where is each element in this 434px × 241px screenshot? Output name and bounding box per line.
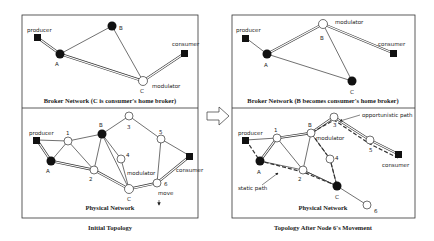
consumer-node — [181, 50, 188, 57]
modulator-label: modulator — [316, 135, 345, 141]
broker-a — [56, 50, 65, 59]
transition-arrow — [207, 107, 229, 125]
right-broker-network: producer consumer A B C modulator Broker… — [236, 19, 406, 105]
producer-label: producer — [236, 27, 261, 34]
consumer-label: consumer — [378, 41, 406, 47]
B-label: B — [119, 25, 123, 31]
B-label: B — [320, 35, 324, 41]
B-label: B — [308, 122, 312, 128]
physical-caption-label: Physical Network — [299, 204, 348, 211]
A-label: A — [257, 169, 261, 175]
right-physical-network — [246, 117, 398, 205]
modulator-label: modulator — [127, 170, 156, 176]
opportunistic-label: opportunistic path — [362, 112, 413, 119]
C-label: C — [335, 194, 339, 200]
right-panel: producer consumer A B C modulator Broker… — [232, 15, 415, 231]
n2-label: 2 — [89, 176, 93, 182]
n6-label: 6 — [374, 208, 378, 214]
A-label: A — [46, 168, 50, 174]
consumer-label: consumer — [176, 167, 204, 173]
producer-node — [34, 34, 41, 41]
broker-c — [139, 77, 148, 86]
n1-label: 1 — [66, 130, 70, 136]
producer-label: producer — [27, 27, 52, 34]
n3-label: 3 — [127, 124, 131, 130]
producer-label: producer — [29, 130, 54, 137]
left-broker-network: producer consumer A B C modulator Broker… — [27, 22, 200, 106]
n1-label: 1 — [274, 127, 278, 133]
modulator-label: modulator — [335, 19, 364, 25]
producer-node — [33, 137, 40, 144]
consumer-node — [186, 153, 193, 160]
n2-label: 2 — [298, 176, 302, 182]
consumer-label: consumer — [382, 162, 410, 168]
left-panel: producer consumer A B C modulator Broker… — [22, 15, 204, 231]
A-label: A — [55, 61, 59, 67]
n4-label: 4 — [126, 152, 130, 158]
broker-caption-label: Broker Network (B becomes consumer's hom… — [247, 97, 398, 105]
broker-b — [108, 22, 117, 31]
right-title: Topology After Node 6's Movement — [274, 224, 373, 231]
n6-label: 6 — [164, 181, 168, 187]
left-physical-caption: Physical Network — [86, 204, 135, 211]
n5-label: 5 — [159, 129, 163, 135]
left-broker-caption: Broker Network (C is consumer's home bro… — [44, 97, 177, 105]
diagram-canvas: producer consumer A B C modulator Broker… — [0, 0, 434, 241]
C-label: C — [127, 196, 131, 202]
A-label: A — [264, 62, 268, 68]
n4-label: 4 — [335, 155, 339, 161]
C-label: C — [350, 89, 354, 95]
producer-label: producer — [238, 130, 263, 137]
static-label: static path — [238, 185, 268, 192]
n3-label: 3 — [333, 122, 337, 128]
n5-label: 5 — [369, 147, 373, 153]
move-label: move — [158, 190, 174, 196]
modulator-label: modulator — [152, 83, 181, 89]
consumer-label: consumer — [172, 41, 200, 47]
B-label: B — [99, 122, 103, 128]
left-physical-network — [37, 116, 190, 189]
left-title: Initial Topology — [88, 224, 133, 231]
C-label: C — [140, 88, 144, 94]
